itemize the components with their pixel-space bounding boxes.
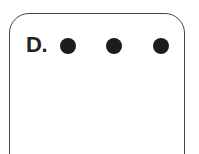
dot-1 bbox=[60, 38, 76, 54]
dot-2 bbox=[106, 38, 122, 54]
panel-label: D. bbox=[26, 32, 47, 58]
dot-3 bbox=[153, 38, 169, 54]
